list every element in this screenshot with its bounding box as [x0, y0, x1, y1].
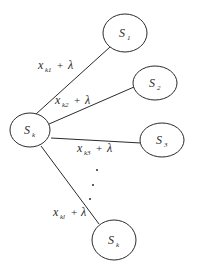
svg-text:+: +	[96, 142, 102, 154]
svg-text:λ: λ	[84, 93, 90, 107]
edge-sk-sk	[41, 146, 99, 224]
svg-text:kl: kl	[60, 213, 65, 221]
svg-text:k2: k2	[62, 101, 69, 109]
node-label-base: S	[119, 26, 125, 40]
node-label-sub: 2	[157, 84, 161, 92]
node-label-base: S	[149, 76, 155, 90]
svg-text:+: +	[74, 94, 80, 106]
svg-text:x: x	[37, 58, 44, 72]
node-center-sk: S k	[10, 113, 50, 147]
node-s1: S 1	[103, 14, 147, 52]
ellipsis-dots	[89, 169, 98, 200]
svg-text:λ: λ	[106, 141, 112, 155]
edge-label-k3: x k3 + λ	[76, 141, 112, 157]
node-label-sub: 3	[163, 141, 168, 149]
node-label-base: S	[108, 233, 114, 247]
svg-text:x: x	[52, 205, 59, 219]
node-label-sub: 1	[127, 34, 131, 42]
svg-text:+: +	[57, 59, 63, 71]
svg-text:λ: λ	[80, 205, 86, 219]
node-label-base: S	[156, 133, 162, 147]
edge-label-k2: x k2 + λ	[54, 93, 90, 109]
edge-label-k1: x k1 + λ	[37, 58, 73, 74]
svg-text:k1: k1	[45, 66, 52, 74]
star-graph-diagram: S k S 1 S 2 S 3 S k x k1 + λ x k2 + λ x	[0, 0, 199, 270]
svg-text:x: x	[76, 141, 83, 155]
node-sk-end: S k	[92, 220, 136, 260]
svg-text:λ: λ	[67, 58, 73, 72]
node-label-base: S	[24, 123, 30, 137]
svg-text:k3: k3	[84, 149, 91, 157]
node-s3: S 3	[140, 123, 184, 157]
svg-text:x: x	[54, 93, 61, 107]
node-s2: S 2	[133, 66, 177, 100]
edge-label-kl: x kl + λ	[52, 205, 86, 221]
svg-text:+: +	[71, 206, 77, 218]
